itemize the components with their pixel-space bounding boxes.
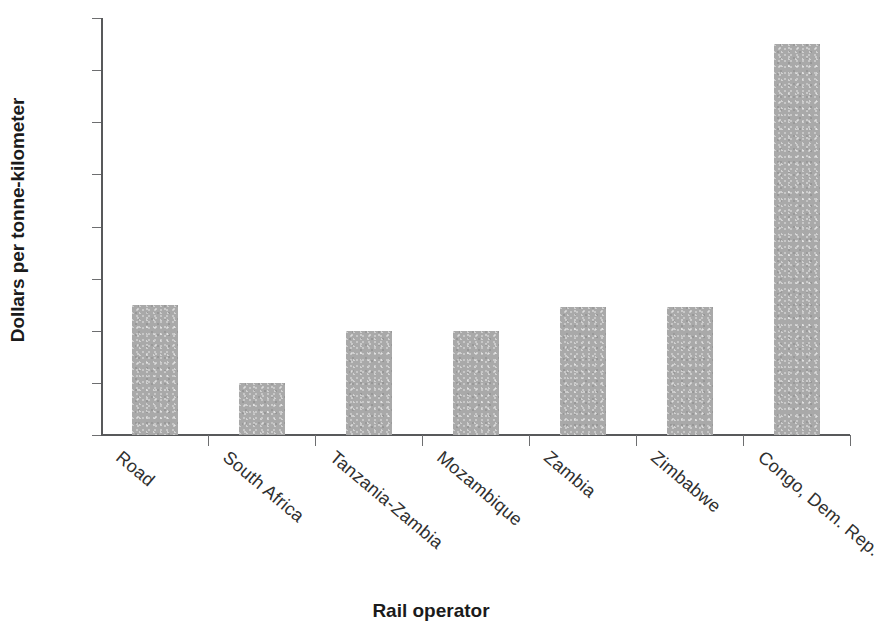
y-axis-tick xyxy=(92,227,101,228)
x-axis-tick-label: Road xyxy=(111,447,158,491)
y-axis-line xyxy=(101,18,103,436)
bar-road xyxy=(132,305,178,435)
x-axis-title-label: Rail operator xyxy=(372,600,489,621)
y-axis-tick xyxy=(92,435,101,436)
x-axis-tick-label: Zambia xyxy=(539,447,599,502)
bar-congo-dem-rep xyxy=(774,44,820,435)
x-axis-tick xyxy=(208,435,209,446)
bar-mozambique xyxy=(453,331,499,435)
y-axis-tick xyxy=(92,174,101,175)
plot-area xyxy=(101,18,850,435)
y-axis-tick xyxy=(92,279,101,280)
bar-zimbabwe xyxy=(667,307,713,435)
x-axis-tick xyxy=(422,435,423,446)
x-axis-tick-label: South Africa xyxy=(218,447,308,527)
y-axis-tick xyxy=(92,18,101,19)
y-axis-title-label: Dollars per tonne-kilometer xyxy=(7,98,29,342)
y-axis-tick xyxy=(92,331,101,332)
x-axis-tick xyxy=(636,435,637,446)
x-axis-tick xyxy=(850,435,851,446)
y-axis-tick xyxy=(92,383,101,384)
bar-south-africa xyxy=(239,383,285,435)
x-axis-tick-label: Tanzania-Zambia xyxy=(325,447,447,554)
x-axis-title: Rail operator xyxy=(0,600,862,622)
y-axis-tick xyxy=(92,122,101,123)
x-axis-tick xyxy=(743,435,744,446)
x-axis-tick-label: Congo, Dem. Rep. xyxy=(753,447,878,561)
y-axis-title: Dollars per tonne-kilometer xyxy=(0,0,36,440)
x-axis-tick xyxy=(315,435,316,446)
x-axis-tick-labels: RoadSouth AfricaTanzania-ZambiaMozambiqu… xyxy=(101,447,850,597)
y-axis-tick xyxy=(92,70,101,71)
bar-tanzania-zambia xyxy=(346,331,392,435)
x-axis-tick xyxy=(529,435,530,446)
bar-zambia xyxy=(560,307,606,435)
x-axis-tick-label: Mozambique xyxy=(432,447,526,531)
x-axis-tick-label: Zimbabwe xyxy=(646,447,724,517)
